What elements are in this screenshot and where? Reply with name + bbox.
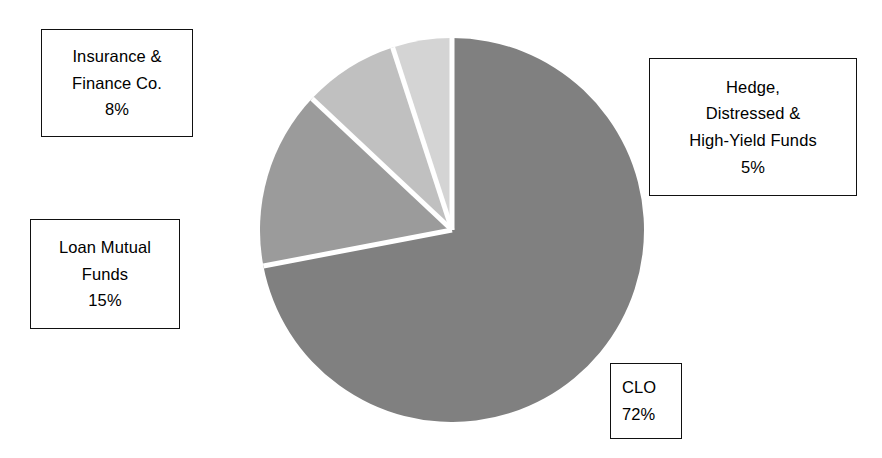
callout-hedge-line-1: Hedge,: [726, 74, 780, 101]
callout-loan-value: 15%: [88, 287, 121, 314]
callout-loan-mutual-funds[interactable]: Loan Mutual Funds 15%: [30, 219, 180, 329]
callout-clo[interactable]: CLO 72%: [610, 363, 682, 439]
callout-hedge-distressed-high-yield-funds[interactable]: Hedge, Distressed & High-Yield Funds 5%: [649, 58, 857, 196]
callout-hedge-line-3: High-Yield Funds: [689, 127, 817, 154]
callout-insurance-value: 8%: [105, 96, 129, 123]
callout-hedge-line-2: Distressed &: [706, 100, 801, 127]
pie-chart-svg: [260, 38, 644, 422]
callout-insurance-line-2: Finance Co.: [72, 70, 162, 97]
callout-insurance-line-1: Insurance &: [72, 43, 161, 70]
callout-insurance-finance-co[interactable]: Insurance & Finance Co. 8%: [41, 29, 193, 137]
callout-clo-line-1: CLO: [622, 374, 656, 401]
callout-loan-line-2: Funds: [82, 261, 128, 288]
callout-loan-line-1: Loan Mutual: [59, 234, 151, 261]
callout-hedge-value: 5%: [741, 154, 765, 181]
callout-clo-value: 72%: [622, 401, 655, 428]
pie-chart-figure: Insurance & Finance Co. 8% Loan Mutual F…: [0, 0, 882, 458]
pie-chart: [260, 38, 644, 422]
